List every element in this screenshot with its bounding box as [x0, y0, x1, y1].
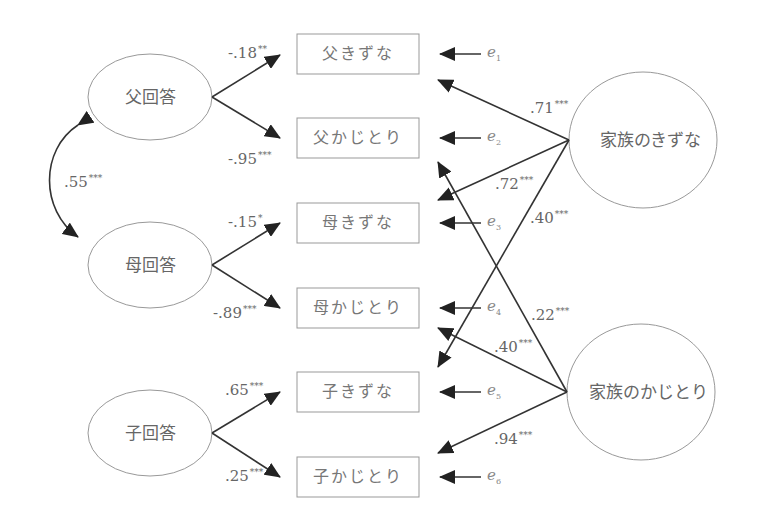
latent-label-child-response: 子回答 [125, 425, 176, 442]
observed-label-mother-adaptability: 母かじとり [313, 300, 403, 316]
coef-father-to-cohesion: -.18** [228, 45, 267, 61]
error-label-4: e4 [487, 299, 501, 317]
error-label-5: e5 [487, 383, 501, 401]
latent-label-father-response: 父回答 [125, 89, 176, 106]
path-diagram [0, 0, 762, 531]
latent-label-family-cohesion: 家族のきずな [600, 132, 701, 149]
coef-mother-to-cohesion: -.15* [228, 214, 262, 230]
arrow-mother-to-adaptability [212, 265, 280, 308]
arrow-father-to-adaptability [212, 97, 280, 138]
coef-father-to-adaptability: -.95*** [228, 151, 271, 167]
latent-label-mother-response: 母回答 [125, 257, 176, 274]
coef-cohesion-to-father: .71*** [530, 100, 568, 116]
observed-label-father-cohesion: 父きずな [322, 46, 394, 62]
coef-adaptability-to-father: .22*** [531, 307, 569, 323]
arrow-adaptability-to-father [438, 162, 567, 392]
error-label-6: e6 [487, 468, 501, 486]
coef-cohesion-to-child: .40*** [530, 210, 568, 226]
coef-father-mother-covariance: .55*** [64, 174, 102, 190]
coef-child-to-cohesion: .65*** [225, 382, 263, 398]
observed-label-father-adaptability: 父かじとり [313, 130, 403, 146]
coef-adaptability-to-child: .94*** [494, 431, 532, 447]
latent-label-family-adaptability: 家族のかじとり [589, 384, 708, 401]
coef-child-to-adaptability: .25*** [225, 468, 263, 484]
error-label-3: e3 [487, 214, 501, 232]
coef-cohesion-to-mother: .72*** [495, 176, 533, 192]
observed-label-child-cohesion: 子きずな [322, 384, 394, 400]
observed-label-mother-cohesion: 母きずな [322, 215, 394, 231]
error-label-1: e1 [487, 45, 501, 63]
observed-label-child-adaptability: 子かじとり [313, 469, 403, 485]
coef-mother-to-adaptability: -.89*** [213, 305, 256, 321]
error-label-2: e2 [487, 129, 501, 147]
coef-adaptability-to-mother: .40*** [494, 339, 532, 355]
